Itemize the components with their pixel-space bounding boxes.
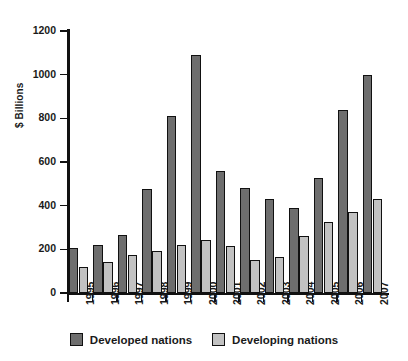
bar-developed-2000 (191, 55, 201, 293)
bar-developing-2004 (299, 236, 309, 293)
x-tick-2002 (238, 295, 240, 302)
x-tick-1999 (165, 295, 167, 302)
y-tick-label-1000: 1000 (10, 69, 56, 80)
bar-developing-1999 (177, 245, 187, 293)
bar-developed-2003 (265, 199, 275, 293)
x-tick-2007 (361, 295, 363, 302)
y-tick-600 (60, 161, 68, 163)
bar-developing-1995 (79, 267, 89, 293)
legend-item-developing: Developing nations (212, 333, 338, 346)
legend-item-developed: Developed nations (70, 333, 192, 346)
x-tick-2004 (287, 295, 289, 302)
bar-developed-2004 (289, 208, 299, 293)
bar-developed-1999 (167, 116, 177, 293)
legend-label-developing: Developing nations (232, 334, 338, 346)
bar-developed-2007 (363, 75, 373, 293)
bar-developed-2005 (314, 178, 324, 293)
y-tick-1200 (60, 30, 68, 32)
y-tick-200 (60, 249, 68, 251)
bar-developing-2001 (226, 246, 236, 293)
x-tick-2001 (214, 295, 216, 302)
legend-label-developed: Developed nations (90, 334, 192, 346)
bar-developing-2003 (275, 257, 285, 293)
bar-developed-2002 (240, 188, 250, 293)
bar-developed-2006 (338, 110, 348, 293)
bar-developed-1998 (142, 189, 152, 293)
legend-swatch-developing (212, 333, 225, 346)
bar-developing-1997 (128, 255, 138, 293)
y-tick-800 (60, 118, 68, 120)
x-tick-1998 (141, 295, 143, 302)
x-tick-2005 (312, 295, 314, 302)
bar-developing-2002 (250, 260, 260, 293)
bar-developed-1996 (93, 245, 103, 293)
bar-developing-2000 (201, 240, 211, 293)
x-tick-1995 (67, 295, 69, 302)
y-tick-label-200: 200 (10, 243, 56, 254)
bar-developing-2007 (373, 199, 383, 293)
y-tick-label-0: 0 (10, 287, 56, 298)
x-tick-2006 (336, 295, 338, 302)
y-tick-400 (60, 205, 68, 207)
y-tick-0 (60, 292, 68, 294)
bar-developed-1997 (118, 235, 128, 294)
bar-chart: $ Billions 020040060080010001200 1995199… (0, 0, 408, 361)
bar-developing-2006 (348, 212, 358, 293)
bar-developed-1995 (69, 248, 79, 293)
bar-developing-2005 (324, 222, 334, 293)
chart-legend: Developed nations Developing nations (0, 333, 408, 346)
bar-developing-1998 (152, 251, 162, 293)
x-tick-2000 (190, 295, 192, 302)
x-tick-1997 (116, 295, 118, 302)
y-tick-label-800: 800 (10, 112, 56, 123)
legend-swatch-developed (70, 333, 83, 346)
y-tick-1000 (60, 74, 68, 76)
y-tick-label-600: 600 (10, 156, 56, 167)
bar-developed-2001 (216, 171, 226, 293)
y-tick-label-1200: 1200 (10, 25, 56, 36)
bar-developing-1996 (103, 262, 113, 293)
x-tick-1996 (92, 295, 94, 302)
x-tick-2003 (263, 295, 265, 302)
y-tick-label-400: 400 (10, 200, 56, 211)
